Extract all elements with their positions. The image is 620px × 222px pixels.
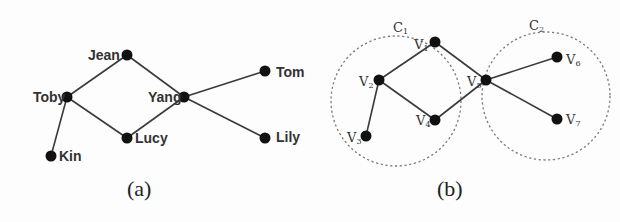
node-label-v3: V3 bbox=[346, 130, 361, 146]
graph-figure: JeanTobyYangTomLucyLilyKin (a) C1C2 V1V2… bbox=[0, 0, 620, 222]
node-label-toby: Toby bbox=[33, 89, 66, 105]
node-label-lily: Lily bbox=[276, 129, 300, 145]
node-label-tom: Tom bbox=[276, 64, 305, 80]
cluster-label-c2: C2 bbox=[529, 18, 544, 34]
node-v5 bbox=[481, 75, 492, 86]
node-v6 bbox=[552, 52, 563, 63]
cluster-c1 bbox=[331, 36, 461, 166]
node-label-lucy: Lucy bbox=[135, 130, 168, 146]
node-label-v6: V6 bbox=[565, 52, 580, 68]
node-v4 bbox=[430, 115, 441, 126]
cluster-c2 bbox=[482, 32, 610, 160]
node-jean bbox=[122, 50, 133, 61]
edge-v2-v4 bbox=[379, 80, 435, 120]
caption-a: (a) bbox=[127, 176, 151, 201]
edge-v1-v5 bbox=[435, 42, 486, 80]
edge-toby-lucy bbox=[67, 97, 127, 138]
node-label-v2: V2 bbox=[358, 74, 373, 90]
graph-b-edges bbox=[366, 42, 557, 136]
cluster-label-c1: C1 bbox=[393, 20, 408, 36]
node-v3 bbox=[361, 131, 372, 142]
node-v2 bbox=[374, 75, 385, 86]
figure-canvas: JeanTobyYangTomLucyLilyKin (a) C1C2 V1V2… bbox=[0, 0, 620, 222]
node-lucy bbox=[122, 133, 133, 144]
graph-a-nodes: JeanTobyYangTomLucyLilyKin bbox=[33, 47, 305, 164]
node-label-kin: Kin bbox=[59, 148, 82, 164]
node-label-v7: V7 bbox=[565, 112, 580, 128]
node-kin bbox=[46, 151, 57, 162]
node-label-yang: Yang bbox=[148, 89, 181, 105]
edge-yang-tom bbox=[184, 71, 265, 97]
node-lily bbox=[260, 133, 271, 144]
node-tom bbox=[260, 66, 271, 77]
node-v7 bbox=[552, 114, 563, 125]
node-label-jean: Jean bbox=[88, 47, 120, 63]
edge-yang-lily bbox=[184, 97, 265, 138]
edge-v5-v6 bbox=[486, 57, 557, 80]
node-v1 bbox=[430, 37, 441, 48]
graph-b-nodes: V1V2V3V4V5V6V7 bbox=[346, 37, 580, 147]
node-label-v5: V5 bbox=[466, 74, 481, 90]
edge-v5-v7 bbox=[486, 80, 557, 119]
caption-b: (b) bbox=[437, 176, 463, 201]
node-label-v1: V1 bbox=[413, 37, 428, 53]
